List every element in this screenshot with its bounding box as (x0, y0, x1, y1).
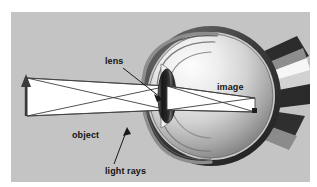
eye-optics-figure: lens object light rays image (0, 0, 317, 187)
lightrays-leader-arrowhead (123, 127, 131, 136)
label-lens: lens (105, 57, 123, 66)
diagram-canvas (11, 12, 310, 182)
lightrays-leader-line (114, 132, 126, 164)
label-object: object (72, 131, 99, 140)
diagram-panel: lens object light rays image (11, 12, 310, 182)
label-image: image (217, 83, 244, 92)
retinal-image-marker (252, 108, 257, 113)
label-light-rays: light rays (105, 167, 146, 176)
